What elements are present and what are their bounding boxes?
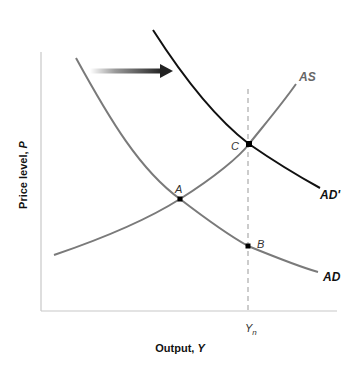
x-tick-label-yn: Yn [245, 322, 257, 337]
x-axis-title: Output, Y [155, 342, 206, 354]
ad-label: AD [322, 270, 341, 284]
as-label: AS [298, 70, 316, 84]
ad-prime-label: AD' [319, 188, 341, 202]
as-ad-diagram: A B C AS AD AD' Yn Output, Y Price level… [0, 0, 362, 367]
point-a-marker [178, 197, 183, 202]
point-a-label: A [174, 183, 182, 195]
point-c-marker [246, 141, 252, 147]
point-c-label: C [231, 140, 239, 152]
as-curve [54, 84, 296, 255]
y-axis-title: Price level, P [17, 140, 29, 209]
shift-arrow-head [160, 64, 173, 78]
point-b-label: B [257, 238, 264, 250]
point-b-marker [246, 244, 251, 249]
shift-arrow-body [90, 69, 162, 74]
ad-prime-curve [153, 30, 320, 188]
